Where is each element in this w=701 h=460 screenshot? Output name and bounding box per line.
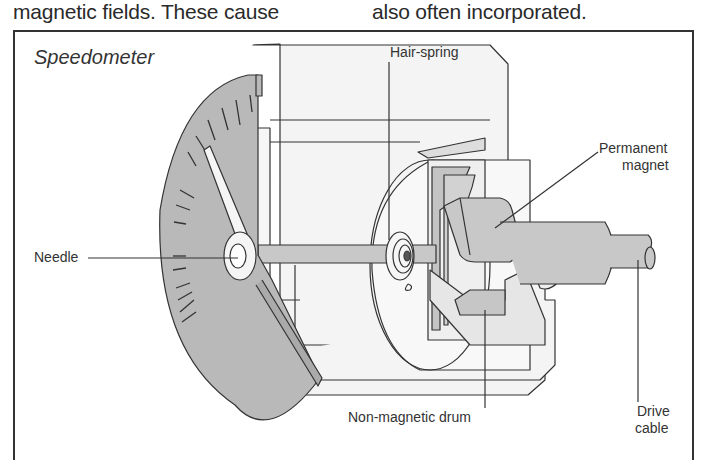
label-needle: Needle: [34, 249, 78, 265]
label-drive-cable-line1: Drive: [637, 403, 670, 419]
label-permanent-magnet-line2: magnet: [622, 157, 669, 173]
drive-housing: [500, 222, 614, 284]
label-permanent-magnet-line1: Permanent: [599, 140, 667, 156]
label-drive-cable-line2: cable: [635, 420, 668, 436]
label-non-magnetic-drum: Non-magnetic drum: [348, 409, 471, 425]
label-hair-spring: Hair-spring: [390, 44, 458, 60]
